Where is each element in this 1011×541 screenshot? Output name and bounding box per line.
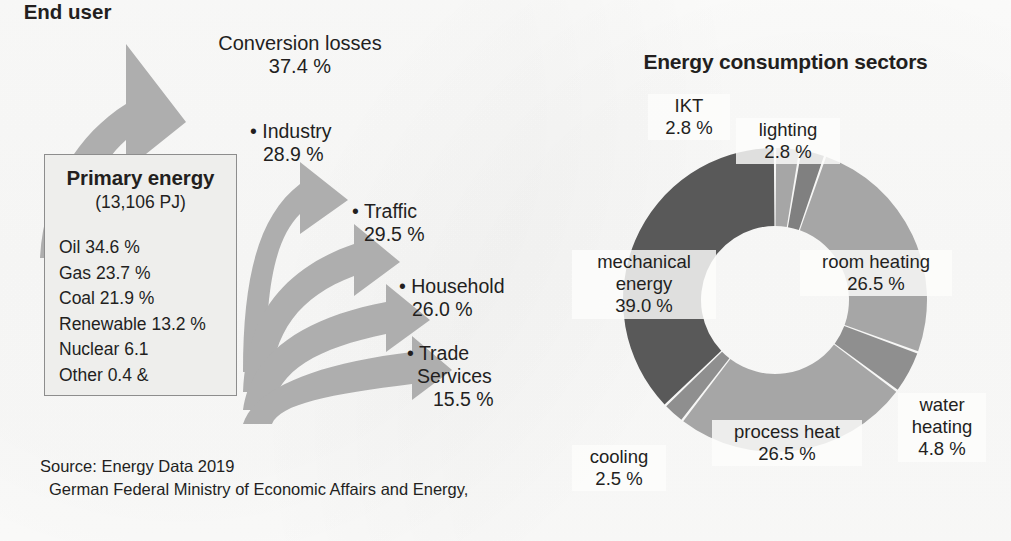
list-item: Nuclear 6.1 [59, 337, 222, 363]
slice-label-ikt: IKT 2.8 % [648, 94, 730, 140]
list-item: Renewable 13.2 % [59, 312, 222, 338]
slice-value-ikt: 2.8 % [651, 117, 727, 139]
end-user-trade-services-label: • Trade Services 15.5 % [407, 342, 494, 410]
end-user-trade-name: • Trade [407, 342, 494, 365]
primary-energy-box: Primary energy (13,106 PJ) Oil 34.6 % Ga… [44, 154, 237, 396]
end-user-traffic-value: 29.5 % [352, 223, 425, 246]
slice-label-water-heating: water heating 4.8 % [898, 393, 986, 462]
primary-energy-title: Primary energy [59, 167, 222, 190]
slice-name-process-heat: process heat [715, 421, 859, 443]
slice-value-mechanical: 39.0 % [575, 295, 713, 317]
primary-energy-flow-diagram: Conversion losses 37.4 % Primary energy … [0, 0, 560, 541]
slice-value-process-heat: 26.5 % [715, 443, 859, 465]
end-user-traffic-name: • Traffic [352, 200, 425, 223]
list-item: Other 0.4 & [59, 363, 222, 389]
list-item: Oil 34.6 % [59, 235, 222, 261]
end-user-industry-name: • Industry [250, 120, 332, 143]
slice-name-water-heating-line2: heating [901, 416, 983, 438]
conversion-losses-name: Conversion losses [190, 32, 410, 55]
source-note-line1: Source: Energy Data 2019 [40, 455, 470, 478]
slice-label-mechanical-energy: mechanical energy 39.0 % [572, 250, 716, 319]
slice-name-room-heating: room heating [803, 251, 949, 273]
slice-name-lighting: lighting [739, 119, 837, 141]
slice-value-lighting: 2.8 % [739, 141, 837, 163]
slice-name-mechanical-line2: energy [575, 273, 713, 295]
list-item: Gas 23.7 % [59, 261, 222, 287]
end-user-industry-label: • Industry 28.9 % [250, 120, 332, 166]
slice-name-ikt: IKT [651, 95, 727, 117]
source-note-line2: German Federal Ministry of Economic Affa… [40, 478, 470, 501]
source-note: Source: Energy Data 2019 German Federal … [40, 455, 470, 501]
end-user-household-label: • Household 26.0 % [399, 275, 504, 321]
energy-consumption-sectors-chart: Energy consumption sectors IKT 2.8 % lig… [560, 0, 1011, 541]
primary-energy-subtitle: (13,106 PJ) [59, 192, 222, 213]
slice-name-cooling: cooling [575, 446, 663, 468]
slice-name-water-heating-line1: water [901, 394, 983, 416]
primary-energy-source-list: Oil 34.6 % Gas 23.7 % Coal 21.9 % Renewa… [59, 235, 222, 389]
end-user-trade-name-line2: Services [407, 365, 494, 388]
list-item: Coal 21.9 % [59, 286, 222, 312]
slice-label-room-heating: room heating 26.5 % [800, 250, 952, 296]
slice-name-mechanical-line1: mechanical [575, 251, 713, 273]
slice-label-process-heat: process heat 26.5 % [712, 420, 862, 466]
conversion-losses-label: Conversion losses 37.4 % [190, 32, 410, 79]
slice-value-cooling: 2.5 % [575, 468, 663, 490]
slice-label-lighting: lighting 2.8 % [736, 118, 840, 164]
end-user-household-value: 26.0 % [399, 298, 504, 321]
conversion-losses-value: 37.4 % [190, 55, 410, 78]
end-user-trade-value: 15.5 % [407, 388, 494, 411]
slice-label-cooling: cooling 2.5 % [572, 445, 666, 491]
slice-value-room-heating: 26.5 % [803, 273, 949, 295]
end-user-traffic-label: • Traffic 29.5 % [352, 200, 425, 246]
slice-value-water-heating: 4.8 % [901, 438, 983, 460]
end-user-household-name: • Household [399, 275, 504, 298]
end-user-industry-value: 28.9 % [250, 143, 332, 166]
